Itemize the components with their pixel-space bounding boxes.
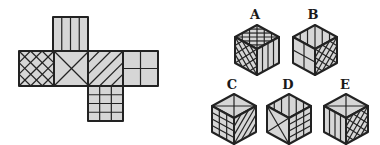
- option-cube-b[interactable]: [293, 25, 337, 75]
- option-label-c[interactable]: C: [227, 78, 237, 91]
- option-cube-c[interactable]: [212, 94, 256, 144]
- puzzle-stage: A B C D E: [0, 0, 380, 145]
- puzzle-figure: [0, 0, 380, 145]
- cube-net: [19, 17, 158, 121]
- option-label-e[interactable]: E: [340, 78, 350, 91]
- net-face-center: [54, 51, 89, 86]
- option-label-d[interactable]: D: [282, 78, 293, 91]
- option-cube-a[interactable]: [235, 25, 279, 75]
- option-cube-d[interactable]: [267, 94, 311, 144]
- net-face-bottom: [88, 86, 123, 121]
- net-face-left: [19, 51, 54, 86]
- option-label-a[interactable]: A: [250, 8, 260, 21]
- net-face-top: [53, 17, 88, 52]
- net-face-right: [88, 51, 123, 86]
- option-label-b[interactable]: B: [308, 8, 319, 21]
- net-face-far-right: [123, 51, 158, 86]
- option-cube-e[interactable]: [324, 94, 368, 144]
